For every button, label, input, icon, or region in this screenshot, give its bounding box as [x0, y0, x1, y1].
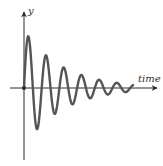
damped-wave-curve [24, 36, 133, 129]
y-axis-label: y [27, 5, 34, 16]
damped-oscillation-diagram: y time [0, 0, 163, 166]
origin-dot [22, 86, 26, 90]
x-axis-label: time [138, 73, 161, 84]
